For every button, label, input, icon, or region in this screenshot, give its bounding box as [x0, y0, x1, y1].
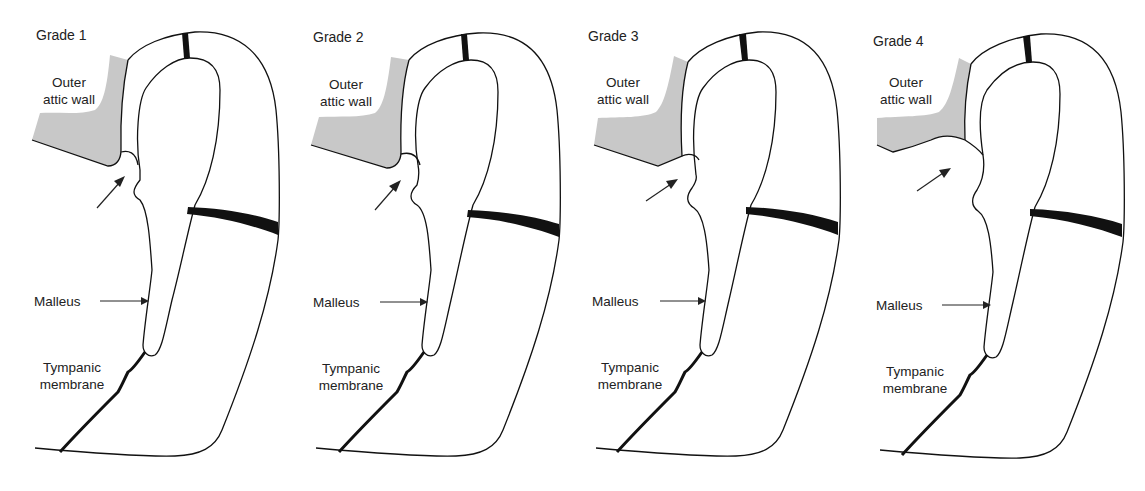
- panel-grade-1: Grade 1 Outer attic wall Malleus Tympani…: [0, 0, 286, 491]
- outer-attic-wall-label: Outer attic wall: [311, 76, 381, 110]
- panel-grade-4: Grade 4 Outer attic wall Malleus Tympani…: [853, 0, 1139, 491]
- grade-label: Grade 3: [588, 28, 639, 45]
- grade-label: Grade 1: [36, 27, 87, 44]
- tympanic-membrane-label: Tympanic membrane: [590, 359, 670, 393]
- tympanic-membrane-label: Tympanic membrane: [875, 363, 955, 397]
- outer-attic-wall-shape: [32, 55, 128, 166]
- lateral-ligament: [187, 207, 278, 235]
- ear-diagram-grade-2: [283, 0, 569, 491]
- tympanic-membrane-label: Tympanic membrane: [32, 359, 112, 393]
- outer-attic-wall-label: Outer attic wall: [588, 74, 658, 108]
- outer-attic-wall-label: Outer attic wall: [871, 74, 941, 108]
- panel-grade-3: Grade 3 Outer attic wall Malleus Tympani…: [566, 0, 852, 491]
- malleus-label: Malleus: [876, 297, 923, 314]
- malleus-label: Malleus: [313, 294, 360, 311]
- panel-grade-2: Grade 2 Outer attic wall Malleus Tympani…: [283, 0, 569, 491]
- malleus-outline: [134, 58, 220, 356]
- outer-attic-wall-label: Outer attic wall: [34, 74, 104, 108]
- tympanic-membrane-label: Tympanic membrane: [311, 360, 391, 394]
- retraction-arrow: [114, 176, 125, 187]
- grade-label: Grade 2: [313, 29, 364, 46]
- malleus-label: Malleus: [34, 293, 81, 310]
- grade-label: Grade 4: [873, 33, 924, 50]
- superior-ligament: [182, 33, 190, 58]
- malleus-label: Malleus: [592, 293, 639, 310]
